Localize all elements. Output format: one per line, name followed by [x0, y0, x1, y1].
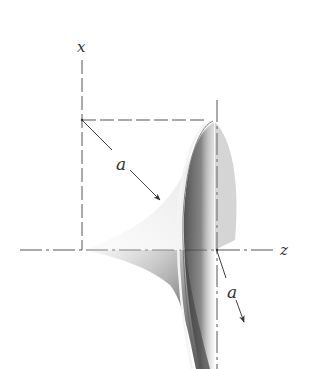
- radius-label-lower: a: [227, 282, 237, 302]
- axis-point: [81, 119, 83, 121]
- x-axis-label: x: [77, 38, 86, 56]
- z-axis-label: z: [279, 241, 288, 259]
- radius-label-upper: a: [116, 154, 126, 174]
- rim-center-point: [216, 249, 218, 251]
- surface-horn: [85, 121, 236, 369]
- diagram-canvas: x z a a: [0, 0, 318, 369]
